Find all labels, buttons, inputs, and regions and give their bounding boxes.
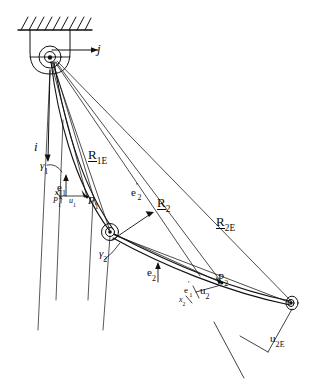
label-x-2: x2 (179, 296, 186, 306)
e2-prime-arrow (112, 211, 154, 240)
label-u-2: u2 (200, 285, 210, 299)
j-vector-arrow (52, 47, 98, 52)
label-R-2E: R2E (216, 215, 235, 232)
label-gamma-2: γ2 (99, 248, 108, 262)
figure-canvas: j i γ1 γ2 e1 e2 e'2 e'1 x1 x2 P1 u1 P1 P… (0, 0, 311, 388)
label-j-vector: j (97, 42, 101, 55)
label-i-vector: i (34, 140, 38, 153)
ceiling-support (18, 17, 92, 30)
label-p-2: P2 (218, 272, 228, 286)
label-e-2-prime: e'2 (131, 184, 142, 201)
label-gamma-1: γ1 (40, 160, 49, 174)
diagram-svg (0, 0, 311, 388)
label-p-1: P1 (88, 195, 99, 209)
label-p-1-foot: P1 (53, 197, 61, 207)
label-R-2: R2 (157, 196, 171, 213)
gamma1-angle-arc (47, 165, 62, 172)
label-R-1E: R1E (88, 148, 107, 165)
label-u-1: u1 (69, 197, 76, 207)
end-effector-hub (286, 296, 298, 310)
label-e-2: e2 (147, 267, 156, 281)
base-to-link2-rays (55, 61, 292, 302)
label-u-2E: u2E (270, 333, 285, 347)
